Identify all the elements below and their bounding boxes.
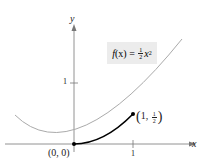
point-label-x: 1, xyxy=(141,110,149,121)
graph xyxy=(0,0,203,158)
x-axis-label: x xyxy=(192,139,196,149)
origin-point xyxy=(72,142,76,146)
point-label-fraction: 12 xyxy=(152,111,157,124)
y-tick-label: 1 xyxy=(63,78,67,86)
function-legend: f(x) = 12x2 xyxy=(107,42,157,64)
origin-label: (0, 0) xyxy=(48,148,70,158)
point-1-half xyxy=(131,112,135,116)
highlighted-arc xyxy=(74,114,133,144)
y-axis-label: y xyxy=(70,14,74,24)
x-tick-label: 1 xyxy=(131,150,135,158)
y-axis-arrow-icon xyxy=(72,24,77,31)
point-label: (1, 12) xyxy=(136,110,162,124)
